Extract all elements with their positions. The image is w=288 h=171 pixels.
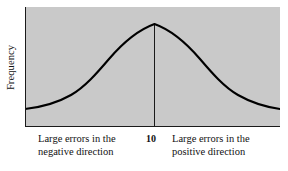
y-axis-label: Frequency	[2, 25, 20, 110]
caption-positive-line-2: positive direction	[172, 145, 250, 158]
caption-negative-line-2: negative direction	[38, 145, 116, 158]
caption-row: Large errors in the negative direction 1…	[0, 131, 288, 171]
normal-distribution-figure: Frequency Large errors in the negative d…	[0, 0, 288, 171]
caption-positive-direction: Large errors in the positive direction	[172, 132, 250, 158]
normal-curve	[25, 24, 280, 109]
x-axis-line	[25, 126, 280, 127]
caption-negative-line-1: Large errors in the	[38, 132, 116, 145]
y-axis-label-text: Frequency	[6, 45, 17, 90]
center-tick-label: 10	[146, 132, 156, 145]
caption-negative-direction: Large errors in the negative direction	[38, 132, 116, 158]
plot-area	[25, 7, 280, 127]
caption-positive-line-1: Large errors in the	[172, 132, 250, 145]
curve-svg	[25, 7, 280, 127]
y-axis-line	[25, 7, 26, 127]
